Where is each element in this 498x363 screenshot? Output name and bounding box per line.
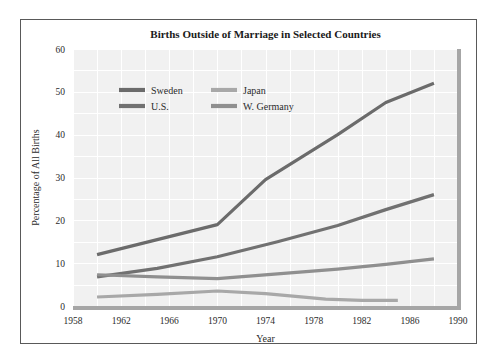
x-axis-tick-label: 1974	[256, 316, 275, 326]
x-axis-tick-label: 1966	[160, 316, 179, 326]
legend-label: Sweden	[151, 85, 183, 96]
y-axis-tick-label: 20	[56, 216, 66, 226]
y-axis-tick-label: 60	[56, 45, 66, 55]
x-axis-tick-label: 1986	[400, 316, 419, 326]
chart-title: Births Outside of Marriage in Selected C…	[150, 28, 381, 40]
y-axis-tick-label: 10	[56, 259, 66, 269]
y-axis-tick-label: 50	[56, 87, 66, 97]
x-axis-tick-label: 1982	[352, 316, 371, 326]
y-axis-tick-label: 30	[56, 173, 66, 183]
legend-label: Japan	[243, 85, 266, 96]
legend-label: W. Germany	[243, 101, 294, 112]
y-axis-title: Percentage of All Births	[30, 129, 41, 225]
x-axis-tick-label: 1970	[208, 316, 227, 326]
y-axis-tick-label: 0	[60, 302, 65, 312]
x-axis-title: Year	[256, 333, 275, 343]
legend-label: U.S.	[151, 101, 169, 112]
x-axis-tick-label: 1962	[112, 316, 131, 326]
chart-figure: Births Outside of Marriage in Selected C…	[20, 19, 477, 344]
x-axis-tick-label: 1978	[304, 316, 323, 326]
y-axis-tick-labels: 0102030405060	[56, 45, 66, 312]
x-axis-tick-label: 1958	[64, 316, 83, 326]
x-axis-tick-labels: 195819621966197019741978198219861990	[64, 316, 468, 326]
y-axis-tick-label: 40	[56, 130, 66, 140]
line-chart: Births Outside of Marriage in Selected C…	[21, 20, 476, 343]
x-axis-tick-label: 1990	[449, 316, 468, 326]
